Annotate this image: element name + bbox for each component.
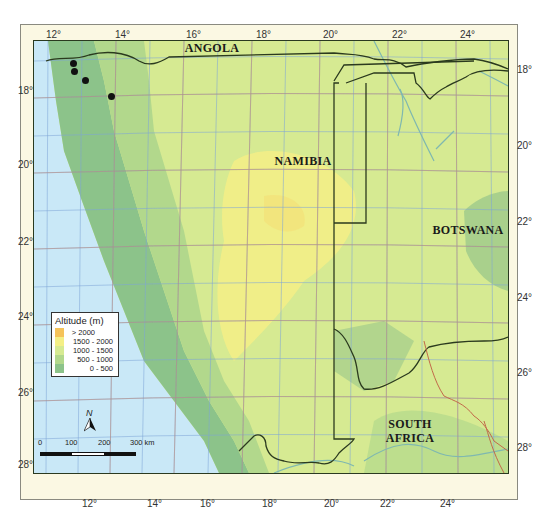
scale-bar: 0 100 200 300 km [38,438,138,458]
scale-label: 0 [38,438,42,447]
lon-tick-bottom: 24° [440,499,455,509]
legend-label: 500 - 1000 [77,355,113,364]
scale-label: 200 [98,438,111,447]
sample-point-marker[interactable] [70,60,77,67]
lat-tick-left: 24° [18,312,33,322]
country-label-line: SOUTH [380,417,440,431]
lat-tick-right: 18° [517,65,532,75]
scale-segment [40,452,72,456]
lon-tick-bottom: 16° [200,499,215,509]
scale-segment [72,452,104,456]
lat-tick-left: 20° [18,160,33,170]
lon-tick-top: 24° [460,30,475,40]
legend-label: 1000 - 1500 [73,346,113,355]
lat-tick-right: 24° [517,293,532,303]
legend-item: 1000 - 1500 [55,346,117,355]
legend-label: 1500 - 2000 [73,337,113,346]
sample-point-marker[interactable] [108,93,115,100]
lon-tick-bottom: 14° [147,499,162,509]
scale-segment [104,452,136,456]
altitude-legend: Altitude (m) > 2000 1500 - 2000 1000 - 1… [51,312,119,377]
lat-tick-right: 28° [517,443,532,453]
legend-label: 0 - 500 [90,364,113,373]
lon-tick-top: 12° [46,30,61,40]
lat-tick-left: 26° [18,388,33,398]
legend-swatch [55,337,64,346]
lon-tick-top: 16° [186,30,201,40]
legend-item: 1500 - 2000 [55,337,117,346]
map-canvas[interactable] [33,40,509,474]
north-letter: N [86,408,93,418]
legend-item: > 2000 [55,328,117,337]
lat-tick-right: 26° [517,368,532,378]
country-label-namibia: NAMIBIA [268,154,338,168]
lat-tick-right: 22° [517,217,532,227]
lon-tick-bottom: 20° [324,499,339,509]
north-arrow: N [84,408,98,432]
sample-point-marker[interactable] [82,77,89,84]
lat-tick-left: 22° [18,237,33,247]
relief-map [34,41,508,473]
lon-tick-bottom: 22° [380,499,395,509]
lat-tick-left: 28° [18,460,33,470]
legend-item: 0 - 500 [55,364,117,373]
legend-swatch [55,364,64,373]
north-arrow-icon [84,418,98,432]
legend-swatch [55,346,64,355]
legend-label: > 2000 [72,328,95,337]
lon-tick-bottom: 12° [82,499,97,509]
lon-tick-top: 20° [323,30,338,40]
lat-tick-right: 20° [517,141,532,151]
country-label-line: AFRICA [380,431,440,445]
country-label-botswana: BOTSWANA [428,223,508,237]
lon-tick-bottom: 18° [262,499,277,509]
legend-item: 500 - 1000 [55,355,117,364]
lon-tick-top: 22° [392,30,407,40]
sample-point-marker[interactable] [71,68,78,75]
country-label-angola: ANGOLA [172,41,252,55]
legend-swatch [55,328,64,337]
scale-label: 100 [65,438,78,447]
country-label-south-africa: SOUTH AFRICA [380,417,440,445]
lat-tick-left: 18° [18,86,33,96]
legend-swatch [55,355,64,364]
lon-tick-top: 14° [115,30,130,40]
lon-tick-top: 18° [256,30,271,40]
legend-title: Altitude (m) [55,315,104,326]
scale-label: 300 km [130,438,155,447]
